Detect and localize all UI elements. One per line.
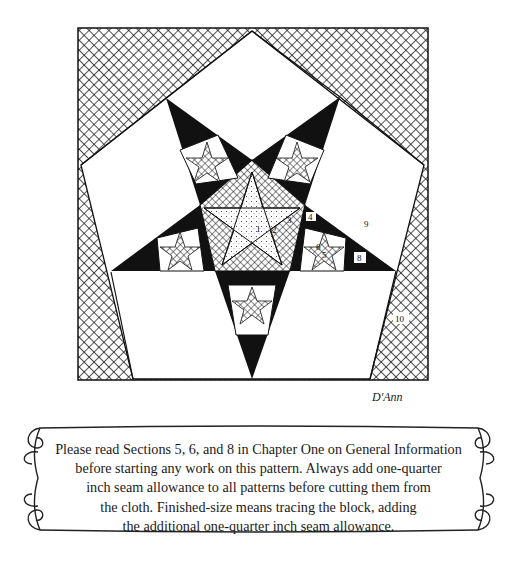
instruction-note: Please read Sections 5, 6, and 8 in Chap… xyxy=(40,440,477,536)
note-line-3: inch seam allowance to all patterns befo… xyxy=(40,478,477,497)
piece-label-3: 3 xyxy=(287,215,292,225)
note-line-2: before starting any work on this pattern… xyxy=(40,459,477,478)
piece-label-8: 8 xyxy=(357,253,362,263)
artist-signature: D'Ann xyxy=(371,390,403,404)
note-line-4: the cloth. Finished-size means tracing t… xyxy=(40,498,477,517)
piece-label-7: 7 xyxy=(322,223,327,233)
note-line-5: the additional one-quarter inch seam all… xyxy=(40,517,477,536)
note-line-1: Please read Sections 5, 6, and 8 in Chap… xyxy=(40,440,477,459)
piece-label-10: 10 xyxy=(395,314,405,324)
piece-label-6: 6 xyxy=(316,242,321,252)
piece-label-4: 4 xyxy=(308,212,313,222)
piece-label-2: 2 xyxy=(272,225,277,235)
mini-star-bottom xyxy=(228,285,276,335)
piece-label-5: 5 xyxy=(322,250,327,260)
piece-label-1: 1 xyxy=(256,224,261,234)
piece-label-9: 9 xyxy=(364,219,369,229)
quilt-block-diagram: 1 2 3 4 5 6 7 8 9 10 D'Ann xyxy=(0,0,517,420)
